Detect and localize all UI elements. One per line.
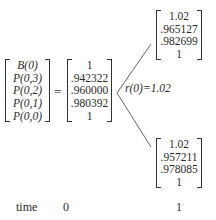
time-1-label: 1 bbox=[176, 200, 182, 215]
root-value: 1 bbox=[87, 59, 93, 71]
rate-label-text: r(0)=1.02 bbox=[125, 82, 171, 94]
up-value: .965127 bbox=[160, 23, 197, 35]
down-value: .978085 bbox=[160, 163, 197, 175]
label-p03: P(0,3) bbox=[13, 72, 42, 84]
down-value: 1 bbox=[176, 176, 182, 188]
time-axis-label: time bbox=[16, 200, 37, 215]
root-value: .960000 bbox=[71, 84, 108, 96]
up-value: 1 bbox=[176, 48, 182, 60]
label-p00: P(0,0) bbox=[13, 110, 42, 122]
label-b0: B(0) bbox=[17, 59, 37, 71]
time-0-label: 0 bbox=[63, 200, 69, 215]
up-node-vector: 1.02 .965127 .982699 1 bbox=[156, 10, 202, 60]
down-node-vector: 1.02 .957211 .978085 1 bbox=[156, 138, 202, 188]
label-vector: B(0) P(0,3) P(0,2) P(0,1) P(0,0) bbox=[5, 59, 50, 122]
root-value: .942322 bbox=[71, 72, 108, 84]
root-value: .980392 bbox=[71, 97, 108, 109]
equals-sign: = bbox=[54, 84, 61, 100]
up-value: 1.02 bbox=[169, 10, 189, 22]
down-branch-line bbox=[117, 93, 151, 147]
up-value: .982699 bbox=[160, 35, 197, 47]
down-value: 1.02 bbox=[169, 138, 189, 150]
down-value: .957211 bbox=[161, 151, 198, 163]
label-p01: P(0,1) bbox=[13, 97, 42, 109]
label-p02: P(0,2) bbox=[13, 84, 42, 96]
root-value: 1 bbox=[87, 110, 93, 122]
rate-label: r(0)=1.02 bbox=[125, 82, 171, 94]
root-value-vector: 1 .942322 .960000 .980392 1 bbox=[67, 59, 112, 122]
